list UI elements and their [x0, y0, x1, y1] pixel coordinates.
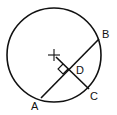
- circle-chord-diagram: A B C D: [0, 0, 117, 115]
- radius-segment-oc: [56, 57, 89, 89]
- label-d: D: [76, 64, 84, 76]
- label-a: A: [31, 100, 39, 112]
- label-c: C: [90, 90, 98, 102]
- label-b: B: [102, 28, 109, 40]
